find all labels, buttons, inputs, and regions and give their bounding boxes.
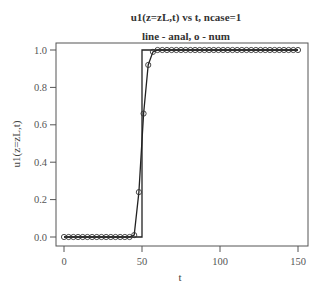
series	[61, 47, 300, 239]
y-axis: 0.00.20.40.60.81.0	[34, 45, 56, 243]
x-tick-label: 150	[290, 256, 306, 267]
series-line-num	[64, 50, 298, 237]
x-tick-label: 100	[212, 256, 228, 267]
plot-frame	[56, 43, 308, 246]
series-line-anal	[64, 50, 298, 237]
x-tick-label: 50	[137, 256, 148, 267]
y-tick-label: 0.4	[34, 157, 48, 168]
y-axis-label: u1(z=zL,t)	[10, 120, 23, 167]
x-axis-label: t	[178, 271, 181, 283]
axes-frame	[56, 43, 308, 246]
x-tick-label: 0	[61, 256, 66, 267]
plot-area: 050100150 0.00.20.40.60.81.0 t u1(z=zL,t…	[0, 0, 322, 295]
y-tick-label: 0.2	[34, 194, 47, 205]
y-tick-label: 0.8	[34, 82, 47, 93]
y-tick-label: 0.0	[34, 232, 47, 243]
x-axis: 050100150	[61, 246, 306, 267]
y-tick-label: 0.6	[34, 119, 47, 130]
y-tick-label: 1.0	[34, 45, 47, 56]
